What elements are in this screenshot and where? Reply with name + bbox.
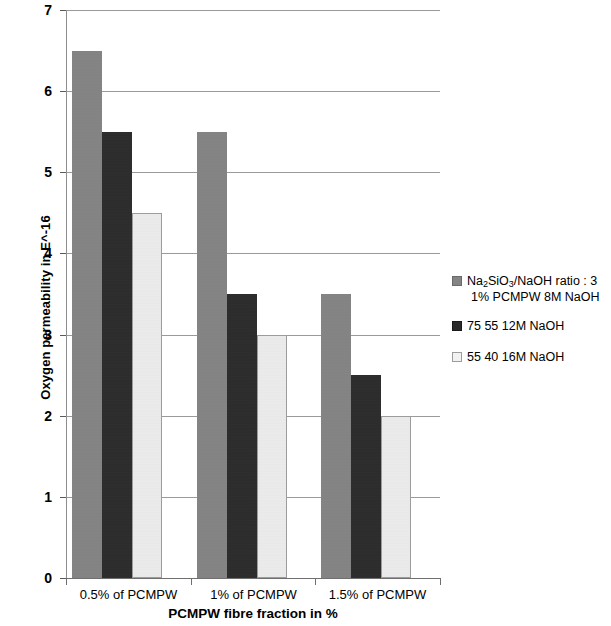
legend-swatch-icon-series-1: [452, 276, 462, 286]
x-axis-tick-mark: [315, 579, 316, 585]
bar-chart-figure: Oxygen permeability in E^-16 76543210 0.…: [0, 0, 611, 626]
x-axis-tick-mark: [191, 579, 192, 585]
bar: [102, 132, 132, 578]
legend-label-series-1-line1: Na2SiO3/NaOH ratio : 3: [452, 274, 611, 290]
y-axis-tick-label: 7: [0, 3, 52, 17]
y-axis-tick-label: 1: [0, 490, 52, 504]
bar: [381, 416, 411, 578]
bar: [227, 294, 257, 578]
y-axis-tick-label: 6: [0, 84, 52, 98]
y-axis-tick-label: 4: [0, 246, 52, 260]
legend-item-series-2: 75 55 12M NaOH: [452, 319, 611, 334]
bar: [197, 132, 227, 578]
bar: [132, 213, 162, 578]
chart-legend: Na2SiO3/NaOH ratio : 3 1% PCMPW 8M NaOH …: [452, 274, 611, 377]
x-axis-line: [66, 578, 441, 579]
x-axis-category-label: 0.5% of PCMPW: [66, 587, 191, 602]
bar: [351, 375, 381, 578]
x-axis-category-label: 1.5% of PCMPW: [315, 587, 440, 602]
gridline: [66, 10, 440, 11]
legend-label-series-1-line2: 1% PCMPW 8M NaOH: [452, 290, 611, 305]
legend-label-series-2: 75 55 12M NaOH: [452, 319, 611, 334]
legend-item-series-1: Na2SiO3/NaOH ratio : 3 1% PCMPW 8M NaOH: [452, 274, 611, 305]
legend-swatch-icon-series-3: [452, 352, 462, 362]
y-axis-tick-label: 5: [0, 165, 52, 179]
x-axis-title: PCMPW fibre fraction in %: [66, 606, 440, 621]
y-axis-tick-label: 3: [0, 328, 52, 342]
legend-swatch-icon-series-2: [452, 321, 462, 331]
x-axis-category-label: 1% of PCMPW: [191, 587, 316, 602]
x-axis-tick-mark: [66, 579, 67, 585]
bar: [72, 51, 102, 578]
x-axis-tick-mark: [440, 579, 441, 585]
legend-label-series-3: 55 40 16M NaOH: [452, 350, 611, 365]
bar: [257, 335, 287, 578]
gridline: [66, 91, 440, 92]
legend-item-series-3: 55 40 16M NaOH: [452, 350, 611, 365]
y-axis-tick-label: 2: [0, 409, 52, 423]
y-axis-tick-label: 0: [0, 571, 52, 585]
plot-area: [66, 10, 440, 578]
bar: [321, 294, 351, 578]
